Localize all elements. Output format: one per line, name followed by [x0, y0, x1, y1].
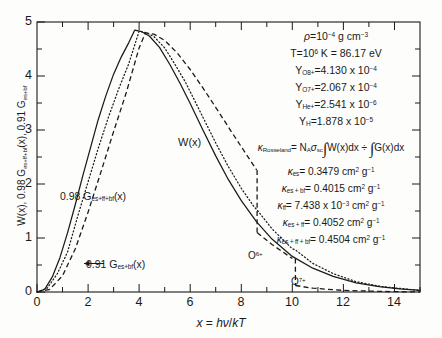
param-abundance-o8: YO8+=4.130 x 10−4 — [238, 62, 434, 79]
x-tick-label-0: 0 — [24, 296, 50, 309]
x-axis-label: x = hν/kT — [0, 316, 442, 330]
param-abundance-h: YH=1.878 x 10−5 — [238, 113, 434, 130]
value-kappa-es-ff: κes + ff= 0.4052 cm2 g−1 — [225, 214, 437, 231]
param-density: ρ=10−4 g cm−3 — [238, 28, 434, 45]
value-kappa-es-ff-bf: κes + ff + bf= 0.4504 cm2 g−1 — [225, 231, 437, 248]
y-axis-label: W(x), 0.98 Ges+ff+bf(x), 0.91 Ges+bf — [16, 26, 27, 286]
equation-rosseland: κRosseland= NAσsc∫W(x)dx ÷ ∫G(x)dx — [225, 136, 437, 163]
x-tick-label-2: 2 — [75, 296, 101, 309]
plasma-parameters-block: ρ=10−4 g cm−3 T=106 K = 86.17 eV YO8+=4.… — [238, 28, 434, 130]
opacity-values-block: κRosseland= NAσsc∫W(x)dx ÷ ∫G(x)dx κes= … — [225, 136, 437, 249]
param-temperature: T=106 K = 86.17 eV — [238, 45, 434, 62]
edge-label-o7: O7+ — [291, 276, 306, 287]
y-axis-ticks — [37, 22, 45, 292]
curve-label-wx: W(x) — [178, 136, 201, 148]
value-kappa-es-bf: κes + bf= 0.4015 cm2 g−1 — [225, 180, 437, 197]
value-kappa-es: κes= 0.3479 cm2 g−1 — [225, 163, 437, 180]
figure-container: 0 1 2 3 4 5 0 2 4 6 8 10 12 14 x = hν/kT… — [0, 0, 442, 338]
x-tick-label-8: 8 — [228, 296, 254, 309]
x-tick-label-10: 10 — [279, 296, 305, 309]
x-tick-label-6: 6 — [177, 296, 203, 309]
x-tick-label-14: 14 — [381, 296, 407, 309]
param-abundance-he: YHe+=2.541 x 10−6 — [238, 96, 434, 113]
x-tick-label-4: 4 — [126, 296, 152, 309]
x-tick-label-12: 12 — [330, 296, 356, 309]
value-kappa-ff: κff= 7.438 x 10−3 cm2 g−1 — [225, 197, 437, 214]
x-axis-label-expr: h — [216, 316, 223, 330]
edge-label-o6: O6+ — [248, 250, 263, 261]
curve-g091-es-bf — [37, 33, 257, 292]
curve-label-g091: 0.91 Ges+bf(x) — [86, 258, 145, 270]
curve-label-g098: 0.98 Ges+ff+bf(x) — [60, 190, 126, 202]
param-abundance-o7: YO7+=2.067 x 10−4 — [238, 79, 434, 96]
